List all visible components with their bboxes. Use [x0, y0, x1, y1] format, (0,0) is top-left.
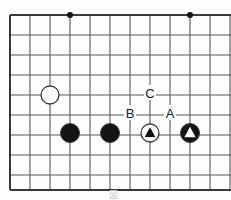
board-border	[10, 15, 231, 190]
star-point-right	[187, 12, 193, 18]
white-stone-1[interactable]	[41, 86, 59, 104]
label-a: A	[166, 106, 175, 121]
black-stone-2[interactable]	[101, 124, 120, 143]
white-stone-triangle[interactable]	[141, 124, 159, 142]
go-board-canvas[interactable]: CBA	[0, 0, 231, 200]
figure-caption: 図	[84, 190, 144, 200]
black-stone-triangle[interactable]	[181, 124, 200, 143]
black-stone-1[interactable]	[61, 124, 80, 143]
label-c: C	[145, 86, 154, 101]
go-board-figure: CBA 図	[0, 0, 231, 200]
star-point-left	[67, 12, 73, 18]
label-b: B	[126, 106, 135, 121]
grid-vertical-lines	[10, 15, 230, 190]
